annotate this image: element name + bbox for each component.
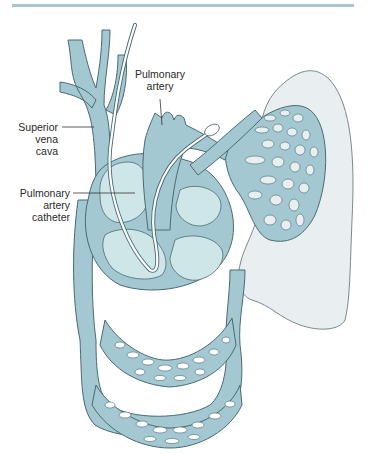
label-line: artery xyxy=(128,80,192,92)
label-line: Pulmonary xyxy=(128,68,192,80)
label-line: cava xyxy=(0,145,58,157)
label-pulmonary-artery: Pulmonary artery xyxy=(128,68,192,92)
label-superior-vena-cava: Superior vena cava xyxy=(0,121,58,157)
label-line: catheter xyxy=(0,211,70,223)
label-pulmonary-artery-catheter: Pulmonary artery catheter xyxy=(0,187,70,223)
label-line: Pulmonary xyxy=(0,187,70,199)
label-line: vena xyxy=(0,133,58,145)
systemic-capillary-bed-upper xyxy=(100,318,236,387)
label-line: Superior xyxy=(0,121,58,133)
label-line: artery xyxy=(0,199,70,211)
left-ventricle xyxy=(170,236,223,280)
right-atrium xyxy=(100,162,149,223)
